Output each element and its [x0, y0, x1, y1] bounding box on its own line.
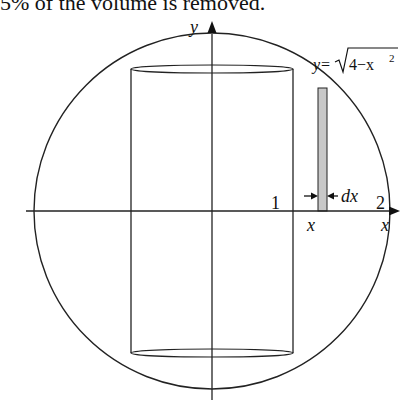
shaded-strip	[318, 88, 327, 211]
x-axis-label: x	[380, 215, 389, 235]
dx-right-arrow-icon	[327, 193, 334, 200]
curve-equation-label: y= 4−x 2	[311, 48, 398, 74]
dx-left-arrow-icon	[311, 193, 318, 200]
x-axis-arrow-icon	[389, 207, 400, 216]
dx-label: dx	[341, 186, 358, 206]
curve-label-prefix: y=	[311, 56, 331, 74]
curve-label-exponent: 2	[389, 52, 395, 64]
sphere-cylinder-figure: y x 1 2 x dx y= 4−x 2	[0, 0, 408, 415]
y-axis-arrow-icon	[208, 21, 217, 33]
curve-label-radicand: 4−x	[349, 56, 374, 73]
y-axis-label: y	[188, 17, 198, 37]
tick-label-one: 1	[271, 193, 280, 213]
strip-position-label: x	[306, 215, 315, 235]
tick-label-two: 2	[376, 193, 385, 213]
